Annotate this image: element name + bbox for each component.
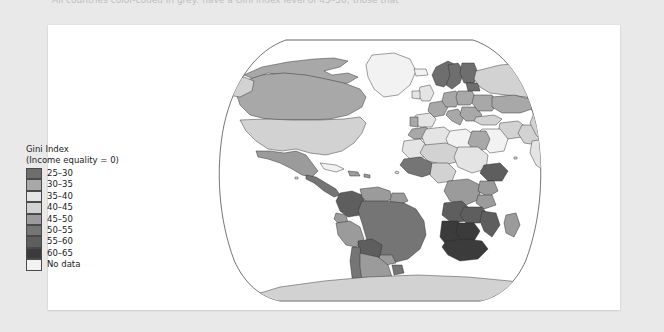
legend-entry-list: 25–3030–3535–4040–4545–5050–5555–6060–65… (26, 168, 119, 271)
region-cuba (320, 163, 344, 172)
legend-entry: No data (26, 259, 119, 270)
region-central-america (306, 175, 340, 197)
region-papua-new-guinea (600, 177, 620, 187)
region-mozambique (480, 211, 500, 237)
legend-swatch (26, 248, 42, 259)
region-india (530, 139, 554, 171)
legend-label: 25–30 (47, 168, 73, 179)
region-borneo (568, 169, 590, 179)
region-southeast-asia (556, 145, 576, 169)
region-portugal (410, 117, 418, 127)
map-landmasses (224, 53, 620, 301)
region-united-states (240, 117, 366, 155)
legend-swatch (26, 236, 42, 247)
page-root: All countries color-coded in grey: have … (0, 0, 664, 332)
region-korea (588, 121, 596, 131)
region-hispaniola (348, 171, 360, 176)
region-mongolia (532, 101, 570, 117)
legend-label: 40–45 (47, 202, 73, 213)
legend-swatch (26, 225, 42, 236)
region-island-dot-3 (514, 157, 517, 159)
region-south-africa (442, 239, 488, 261)
region-ireland (412, 91, 420, 99)
region-united-kingdom (418, 85, 434, 101)
legend-entry: 60–65 (26, 248, 119, 259)
region-australia (556, 205, 620, 255)
legend-entry: 40–45 (26, 202, 119, 213)
legend-label: 35–40 (47, 191, 73, 202)
region-island-dot-5 (588, 199, 590, 201)
region-puerto-rico (364, 174, 370, 178)
region-russia (474, 63, 588, 99)
region-philippines (580, 153, 594, 165)
legend-label: 50–55 (47, 225, 73, 236)
region-japan (594, 113, 608, 131)
legend-swatch (26, 168, 42, 179)
region-greenland (366, 53, 416, 97)
region-iceland (414, 69, 428, 76)
region-ethiopia (480, 163, 508, 181)
region-russia-east (542, 69, 590, 95)
legend-entry: 55–60 (26, 236, 119, 247)
region-uruguay (392, 265, 404, 275)
background-text-row (56, 14, 612, 21)
region-antarctica (234, 275, 548, 301)
region-kazakhstan (492, 95, 532, 113)
legend-entry: 45–50 (26, 214, 119, 225)
region-island-dot-2 (395, 171, 399, 174)
legend-label: 45–50 (47, 214, 73, 225)
region-mexico (256, 151, 318, 177)
legend-entry: 30–35 (26, 179, 119, 190)
region-island-dot-1 (295, 177, 298, 179)
region-tasmania (598, 259, 608, 267)
legend-swatch (26, 191, 42, 202)
world-map[interactable] (48, 25, 620, 310)
region-island-dot-4 (608, 195, 611, 197)
region-indonesia (548, 175, 600, 187)
legend-entry: 35–40 (26, 191, 119, 202)
region-nigeria (430, 163, 456, 183)
legend-label: 30–35 (47, 179, 73, 190)
legend-title: Gini Index (26, 144, 119, 155)
legend-entry: 50–55 (26, 225, 119, 236)
legend-label: 55–60 (47, 236, 73, 247)
region-madagascar (504, 213, 520, 237)
legend-subtitle: (Income equality = 0) (26, 155, 119, 166)
background-text-bottom (60, 312, 600, 328)
legend-swatch (26, 179, 42, 190)
legend-label: 60–65 (47, 248, 73, 259)
legend-label: No data (47, 259, 80, 270)
map-legend: Gini Index (Income equality = 0) 25–3030… (26, 144, 119, 271)
region-afghanistan-pakistan (518, 125, 544, 145)
region-venezuela (360, 187, 392, 203)
legend-swatch (26, 202, 42, 213)
legend-entry: 25–30 (26, 168, 119, 179)
region-kenya (478, 181, 498, 197)
legend-swatch (26, 214, 42, 225)
legend-swatch (26, 259, 42, 270)
clipped-caption-text: All countries color-coded in grey: have … (52, 0, 612, 5)
